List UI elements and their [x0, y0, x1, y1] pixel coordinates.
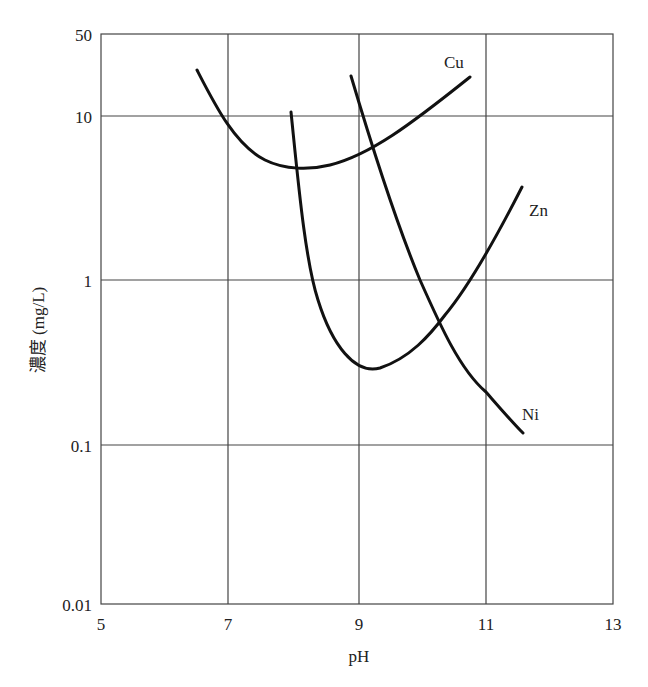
series-label-zn: Zn — [529, 201, 548, 220]
y-tick-0.01: 0.01 — [62, 596, 92, 615]
series-ni-curve — [351, 76, 523, 433]
y-tick-10: 10 — [75, 108, 92, 127]
y-tick-0.1: 0.1 — [71, 437, 92, 456]
series-label-cu: Cu — [444, 53, 464, 72]
x-tick-11: 11 — [478, 615, 494, 634]
y-tick-1: 1 — [84, 272, 93, 291]
x-tick-9: 9 — [355, 615, 364, 634]
grid — [101, 34, 613, 604]
y-tick-50: 50 — [75, 26, 92, 45]
chart: 50 10 1 0.1 0.01 5 7 9 11 13 pH 濃度 (mg/L… — [0, 0, 648, 687]
x-tick-5: 5 — [97, 615, 106, 634]
x-tick-13: 13 — [605, 615, 622, 634]
x-axis-label: pH — [349, 647, 370, 666]
x-tick-7: 7 — [224, 615, 233, 634]
plot-frame — [101, 34, 613, 604]
series-label-ni: Ni — [522, 405, 539, 424]
y-axis-label: 濃度 (mg/L) — [29, 287, 48, 373]
series-zn-curve — [291, 112, 522, 369]
series-cu-curve — [197, 70, 470, 168]
